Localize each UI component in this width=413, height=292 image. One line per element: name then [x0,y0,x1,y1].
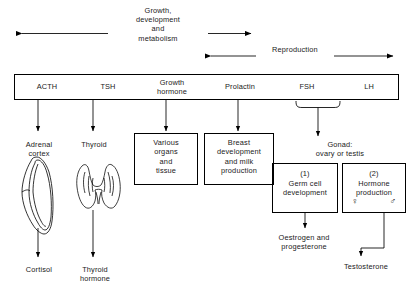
gonad-function-1-number: (1) [273,169,337,178]
target-various-organs-label: Various organs and tissue [135,138,197,176]
pituitary-hormone-bar: ACTH TSH Growth hormone Prolactin FSH LH [14,74,399,100]
output-thyroid-hormone: Thyroid hormone [67,265,123,283]
hormone-fsh: FSH [275,75,339,99]
output-cortisol: Cortisol [11,265,67,274]
hormone-growth-hormone: Growth hormone [139,75,205,99]
target-thyroid: Thyroid [66,140,122,149]
hormone-tsh: TSH [77,75,139,99]
hormone-lh: LH [339,75,399,99]
target-adrenal-cortex: Adrenal cortex [10,140,68,158]
arrow-to-testosterone [361,213,384,256]
output-oestrogen-progesterone: Oestrogen and progesterone [256,233,352,251]
male-symbol: ♂ [385,197,401,206]
fsh-lh-brace [296,101,340,108]
gonad-function-box-germ-cell: (1) Germ cell development [272,163,338,213]
diagram-canvas: Growth, development and metabolism Repro… [0,0,413,292]
reproduction-label: Reproduction [258,45,332,54]
output-testosterone: Testosterone [330,262,402,271]
target-breast-development-label: Breast development and milk production [205,138,273,176]
target-box-breast-development: Breast development and milk production [204,133,274,185]
target-box-various-organs: Various organs and tissue [134,133,198,185]
adrenal-cortex-illustration [22,157,53,234]
growth-development-metabolism-label: Growth, development and metabolism [110,6,206,43]
hormone-acth: ACTH [15,75,79,99]
thyroid-gland-illustration [77,164,121,208]
female-symbol: ♀ [347,197,363,206]
gonad-function-2-label: Hormone production [343,179,405,198]
hormone-prolactin: Prolactin [205,75,275,99]
gonad-function-box-hormone-production: (2) Hormone production ♀ ♂ [342,163,406,213]
gonad-function-1-label: Germ cell development [273,179,337,198]
gonad-function-2-number: (2) [343,169,405,178]
target-gonad: Gonad: ovary or testis [288,140,392,158]
